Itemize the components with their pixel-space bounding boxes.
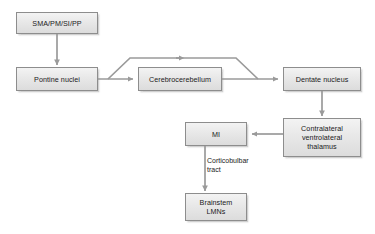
- node-contralateral-ventrolateral-thalamus-label: Contralateral ventrolateral thalamus: [299, 124, 345, 151]
- node-brainstem-lmns[interactable]: Brainstem LMNs: [185, 193, 247, 221]
- node-brainstem-lmns-label: Brainstem LMNs: [198, 198, 235, 216]
- node-cerebrocerebellum[interactable]: Cerebrocerebellum: [138, 67, 222, 91]
- node-dentate-nucleus[interactable]: Dentate nucleus: [283, 67, 361, 91]
- diagram-canvas: SMA/PM/SI/PP Pontine nuclei Cerebrocereb…: [0, 0, 375, 234]
- node-cerebrocerebellum-label: Cerebrocerebellum: [147, 75, 213, 84]
- node-pontine-nuclei-label: Pontine nuclei: [32, 75, 82, 84]
- node-dentate-nucleus-label: Dentate nucleus: [294, 75, 351, 84]
- node-pontine-nuclei[interactable]: Pontine nuclei: [16, 67, 98, 91]
- edge-label-corticobulbar-tract: Corticobulbar tract: [207, 157, 273, 174]
- node-contralateral-ventrolateral-thalamus[interactable]: Contralateral ventrolateral thalamus: [283, 118, 361, 157]
- node-sma-pm-si-pp[interactable]: SMA/PM/SI/PP: [16, 12, 98, 34]
- node-mi-label: MI: [210, 130, 222, 139]
- node-sma-pm-si-pp-label: SMA/PM/SI/PP: [30, 19, 83, 28]
- node-mi[interactable]: MI: [185, 122, 247, 146]
